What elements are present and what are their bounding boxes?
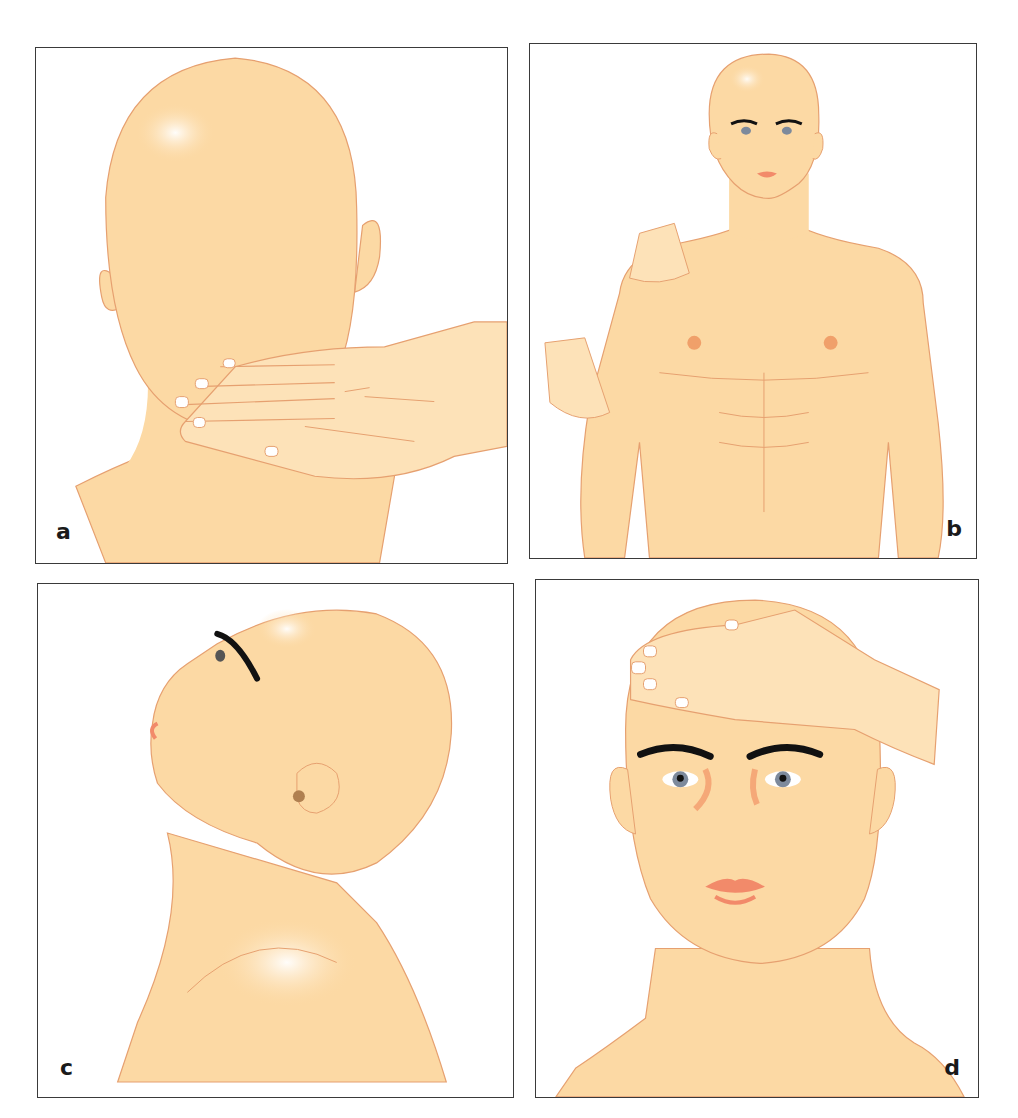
figure-panel-b: b	[529, 43, 977, 559]
figure-panel-a: a	[35, 47, 508, 564]
panel-label-b: b	[946, 518, 962, 540]
figure-panel-d: d	[535, 579, 979, 1098]
panel-label-d: d	[944, 1057, 960, 1079]
anterior-torso-illustration	[530, 44, 976, 558]
examiner-hand-shoulder	[630, 223, 690, 282]
lateral-head-extension-illustration	[38, 584, 513, 1097]
panel-label-c: c	[60, 1057, 73, 1079]
anterior-face-forehead-hand-illustration	[536, 580, 978, 1097]
posterior-head-neck-illustration	[36, 48, 507, 563]
panel-label-a: a	[56, 521, 71, 543]
figure-panel-c: c	[37, 583, 514, 1098]
